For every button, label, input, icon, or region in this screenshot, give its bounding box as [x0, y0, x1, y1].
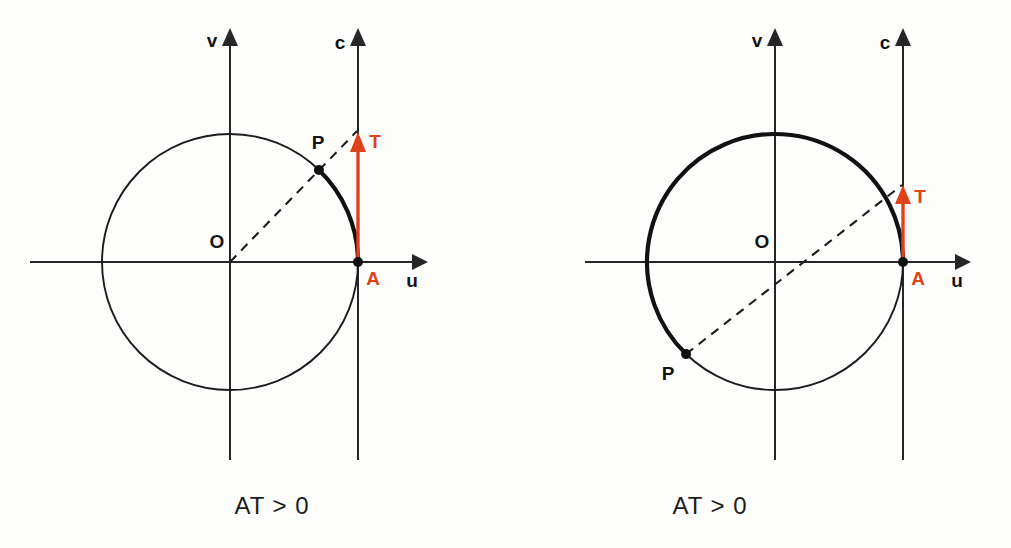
point-p-dot	[681, 349, 691, 359]
point-t-label: T	[914, 186, 926, 207]
v-axis-label: v	[207, 30, 218, 51]
diagram-panel-right: v c u O P A T AT > 0	[505, 0, 1011, 548]
point-p-label: P	[662, 363, 675, 384]
point-t-label: T	[369, 131, 381, 152]
c-axis-arrowhead	[350, 28, 366, 46]
u-axis-arrowhead	[412, 254, 428, 270]
c-axis-label: c	[880, 32, 891, 53]
c-axis-arrowhead	[895, 28, 911, 46]
panel-caption: AT > 0	[672, 492, 747, 519]
point-a-dot	[353, 257, 363, 267]
origin-label: O	[755, 231, 770, 252]
v-axis-arrowhead	[767, 28, 783, 46]
v-axis-label: v	[752, 30, 763, 51]
u-axis-label: u	[951, 270, 963, 291]
figure-root: v c u O P A T AT > 0 v c u	[0, 0, 1011, 548]
point-a-label: A	[366, 268, 380, 289]
point-p-dot	[314, 165, 324, 175]
v-axis-arrowhead	[222, 28, 238, 46]
radius-dashed-line	[686, 185, 902, 354]
u-axis-label: u	[406, 270, 418, 291]
origin-label: O	[210, 231, 225, 252]
point-a-dot	[898, 257, 908, 267]
c-axis-label: c	[335, 32, 346, 53]
highlighted-arc	[319, 170, 358, 262]
tangent-arrowhead	[895, 185, 911, 204]
u-axis-arrowhead	[955, 254, 971, 270]
panel-caption: AT > 0	[234, 492, 309, 519]
diagram-panel-left: v c u O P A T AT > 0	[0, 0, 505, 548]
point-p-label: P	[312, 132, 325, 153]
point-a-label: A	[911, 268, 925, 289]
